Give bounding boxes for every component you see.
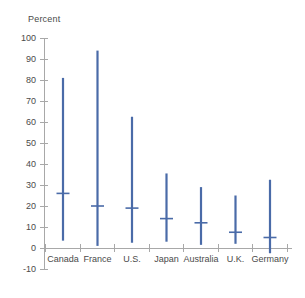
x-tick-label: Canada: [47, 254, 79, 264]
y-tick-label: 30: [26, 180, 36, 190]
axis-lines: [44, 38, 292, 269]
x-tick-label: Germany: [251, 254, 289, 264]
range-bars: [57, 51, 277, 254]
x-tick-label: Australia: [183, 254, 218, 264]
y-tick-label: 10: [26, 222, 36, 232]
x-axis-labels: CanadaFranceU.S.JapanAustraliaU.K.German…: [47, 254, 289, 264]
y-tick-label: 70: [26, 96, 36, 106]
y-tick-label: 20: [26, 201, 36, 211]
y-tick-label: 100: [21, 33, 36, 43]
x-tick-label: France: [83, 254, 111, 264]
x-tick-label: Japan: [154, 254, 179, 264]
y-tick-label: 60: [26, 117, 36, 127]
y-tick-label: 40: [26, 159, 36, 169]
y-tick-label: -10: [23, 264, 36, 274]
y-tick-label: 0: [31, 243, 36, 253]
y-axis-ticks: 1009080706050403020100-10: [21, 33, 48, 274]
y-tick-label: 90: [26, 54, 36, 64]
y-tick-label: 50: [26, 138, 36, 148]
range-chart: Percent 1009080706050403020100-10 Canada…: [0, 0, 305, 298]
y-tick-label: 80: [26, 75, 36, 85]
plot-area: 1009080706050403020100-10 CanadaFranceU.…: [0, 0, 305, 298]
x-tick-label: U.S.: [123, 254, 141, 264]
x-tick-label: U.K.: [227, 254, 245, 264]
